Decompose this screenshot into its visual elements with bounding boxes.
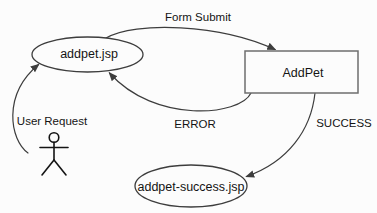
addpet-label: AddPet	[282, 66, 324, 80]
user-actor-icon	[40, 133, 68, 175]
actor-right-leg	[54, 160, 66, 175]
node-addpet-success-jsp: addpet-success.jsp	[135, 165, 247, 207]
flow-diagram: Form Submit User Request ERROR SUCCESS a…	[0, 0, 377, 213]
edge-label-success: SUCCESS	[316, 117, 372, 129]
actor-head	[49, 133, 59, 143]
addpet-success-label: addpet-success.jsp	[137, 180, 244, 194]
node-addpet-jsp: addpet.jsp	[32, 37, 143, 72]
edge-label-user-request: User Request	[17, 115, 88, 127]
edge-error	[110, 73, 252, 111]
edge-user-request	[13, 65, 39, 154]
diagram-canvas: Form Submit User Request ERROR SUCCESS a…	[0, 0, 377, 213]
actor-left-leg	[42, 160, 54, 175]
edge-success	[247, 93, 316, 177]
node-addpet: AddPet	[245, 51, 358, 93]
edge-label-form-submit: Form Submit	[165, 11, 232, 23]
edge-label-error: ERROR	[174, 118, 216, 130]
addpet-jsp-label: addpet.jsp	[60, 47, 118, 61]
